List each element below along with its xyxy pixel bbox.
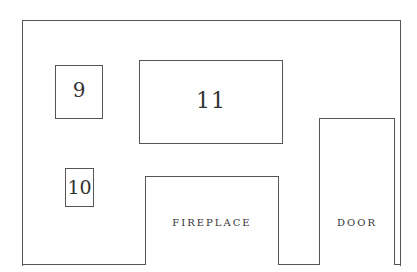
door: DOOR	[319, 118, 395, 265]
fireplace: FIREPLACE	[145, 176, 279, 265]
fireplace-label: FIREPLACE	[146, 217, 278, 228]
frame-9-label: 9	[56, 78, 102, 102]
frame-10-label: 10	[66, 176, 93, 198]
frame-9: 9	[55, 65, 103, 119]
frame-10: 10	[65, 168, 94, 207]
door-label: DOOR	[320, 217, 394, 228]
frame-11-label: 11	[140, 88, 282, 113]
frame-11: 11	[139, 60, 283, 144]
